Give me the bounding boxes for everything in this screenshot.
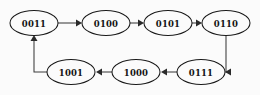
nodes-layer: 0011010001010110011110001001 [10, 11, 250, 85]
node-label-0100: 0100 [94, 19, 118, 29]
node-1001[interactable]: 1001 [47, 60, 95, 85]
edge-1001-to-0011 [34, 39, 47, 72]
state-transition-diagram: 0011010001010110011110001001 [0, 0, 260, 95]
node-1000[interactable]: 1000 [112, 60, 160, 85]
arrowhead-icon-to-0100 [76, 20, 82, 27]
node-label-0101: 0101 [156, 19, 180, 29]
node-0101[interactable]: 0101 [144, 11, 192, 36]
node-0011[interactable]: 0011 [10, 11, 58, 36]
node-label-1001: 1001 [59, 68, 83, 78]
arrowhead-icon-to-1001 [96, 69, 102, 76]
node-label-0011: 0011 [22, 19, 46, 29]
graph-canvas: 0011010001010110011110001001 [0, 0, 260, 95]
edge-0110-to-0111 [226, 36, 229, 73]
arrowhead-icon-to-1000 [161, 69, 167, 76]
node-0110[interactable]: 0110 [202, 11, 250, 36]
arrowhead-icon-to-0101 [138, 20, 144, 27]
node-0100[interactable]: 0100 [82, 11, 130, 36]
node-label-0111: 0111 [189, 68, 213, 78]
node-label-0110: 0110 [214, 19, 238, 29]
node-0111[interactable]: 0111 [177, 60, 225, 85]
arrowhead-icon-to-0110 [196, 20, 202, 27]
node-label-1000: 1000 [124, 68, 148, 78]
